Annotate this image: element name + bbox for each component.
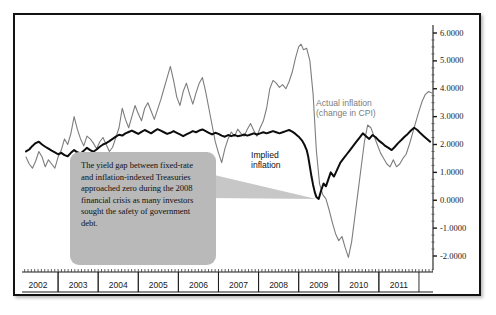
y-axis-tick-label: 5.0000 [440,56,463,65]
x-axis-year-label: 2010 [339,281,379,290]
x-axis-year-label: 2002 [18,281,58,290]
x-axis-year-label: 2005 [138,281,178,290]
series-label-actual-line1: Actual inflation [316,98,376,108]
callout-text: The yield gap between fixed-rate and inf… [81,160,207,230]
y-axis-tick-label: 1.0000 [440,168,463,177]
series-label-implied-line2: inflation [251,160,281,170]
x-axis-year-label: 2003 [58,281,98,290]
x-axis-year-label: 2004 [98,281,138,290]
series-label-implied-line1: Implied [251,150,281,160]
series-label-implied-inflation: Implied inflation [251,150,281,170]
y-axis-tick-label: 6.0000 [440,29,463,38]
chart-figure: 6.00005.00004.00003.00002.00001.00000.00… [0,0,496,315]
y-axis-tick-label: 3.0000 [440,112,463,121]
y-axis-tick-label: -1.0000 [440,224,466,233]
x-axis-year-label: 2011 [379,281,419,290]
series-label-actual-line2: (change in CPI) [316,108,376,118]
y-axis-tick-label: 4.0000 [440,84,463,93]
y-axis [432,25,438,270]
series-label-actual-inflation: Actual inflation (change in CPI) [316,98,376,118]
x-axis-year-label: 2008 [259,281,299,290]
callout-bubble: The yield gap between fixed-rate and inf… [70,152,216,265]
y-axis-tick-label: 0.0000 [440,196,463,205]
x-axis-year-label: 2007 [219,281,259,290]
y-axis-tick-label: -2.0000 [440,252,466,261]
y-axis-tick-label: 2.0000 [440,140,463,149]
x-axis-year-label: 2009 [299,281,339,290]
callout-tail [210,174,316,199]
x-axis-year-label: 2006 [178,281,218,290]
